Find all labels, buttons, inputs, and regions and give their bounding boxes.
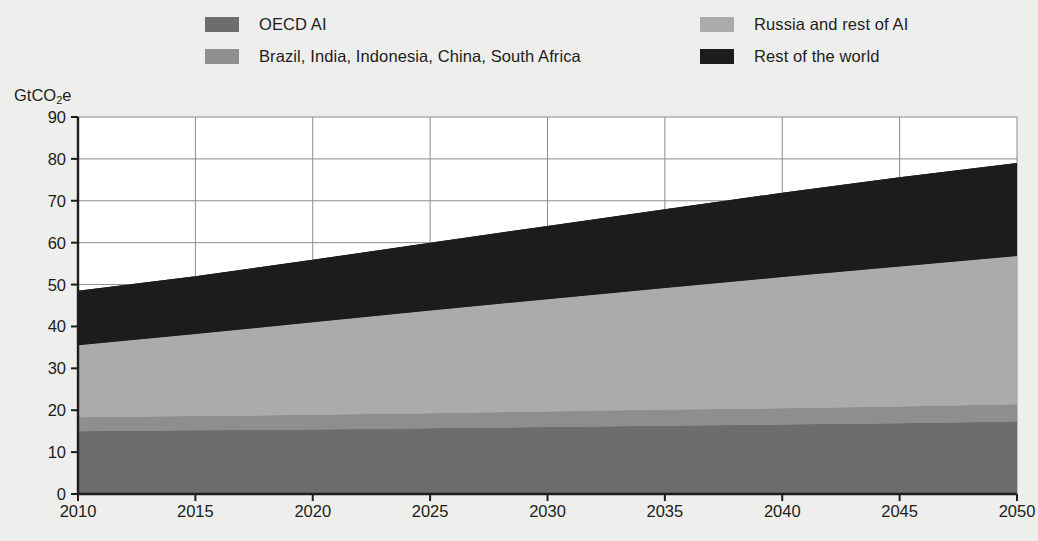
plot-area-wrapper: 0102030405060708090 20102015202020252030… — [0, 0, 1038, 541]
area-series-fill-0 — [78, 422, 1017, 494]
x-tick-label: 2045 — [881, 502, 918, 521]
y-tick-label: 50 — [8, 276, 66, 295]
y-tick-label: 60 — [8, 234, 66, 253]
y-tick-label-group: 0102030405060708090 — [0, 0, 66, 541]
x-tick-label: 2030 — [529, 502, 566, 521]
y-tick-label: 80 — [8, 150, 66, 169]
plot-svg — [0, 0, 1038, 541]
x-tick-label: 2010 — [60, 502, 97, 521]
y-tick-label: 20 — [8, 401, 66, 420]
x-tick-label: 2025 — [412, 502, 449, 521]
x-tick-label: 2015 — [177, 502, 214, 521]
x-tick-label: 2050 — [999, 502, 1036, 521]
x-tick-label: 2040 — [764, 502, 801, 521]
stacked-area-chart-figure: OECD AI Brazil, India, Indonesia, China,… — [0, 0, 1038, 541]
x-tick-label: 2035 — [647, 502, 684, 521]
y-tick-label: 30 — [8, 359, 66, 378]
y-tick-label: 90 — [8, 108, 66, 127]
x-tick-label: 2020 — [294, 502, 331, 521]
y-tick-label: 40 — [8, 317, 66, 336]
y-tick-label: 10 — [8, 443, 66, 462]
y-tick-label: 70 — [8, 192, 66, 211]
y-tick-label: 0 — [8, 485, 66, 504]
